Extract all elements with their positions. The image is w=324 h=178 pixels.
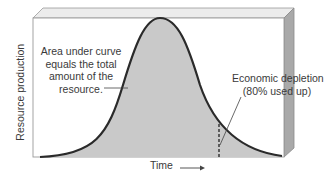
time-arrow-head xyxy=(200,166,205,171)
area-annotation-line-2: equals the total xyxy=(36,58,126,71)
depletion-annotation: Economic depletion (80% used up) xyxy=(232,72,322,97)
area-annotation-line-4: resource. xyxy=(36,83,126,96)
depletion-annotation-line-1: Economic depletion xyxy=(232,72,322,85)
depletion-annotation-line-2: (80% used up) xyxy=(232,85,322,98)
panel-bevel-top xyxy=(33,8,294,18)
y-axis-label: Resource production xyxy=(14,42,27,142)
area-annotation-line-3: amount of the xyxy=(36,70,126,83)
area-annotation: Area under curve equals the total amount… xyxy=(36,45,126,95)
x-axis-label: Time xyxy=(150,159,173,172)
area-annotation-line-1: Area under curve xyxy=(36,45,126,58)
